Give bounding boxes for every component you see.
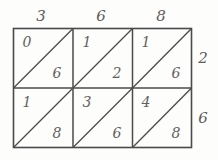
cell-lower-digit-r1c1: 6 <box>113 126 122 140</box>
cell-lower-digit-r1c0: 8 <box>53 126 62 140</box>
cell-upper-digit-r1c1: 3 <box>83 95 92 109</box>
cell-upper-digit-r1c0: 1 <box>23 95 32 109</box>
top-label-0: 3 <box>36 9 46 24</box>
cell-lower-digit-r1c2: 8 <box>172 126 181 140</box>
cell-upper-digit-r0c0: 0 <box>23 35 32 49</box>
cell-lower-digit-r0c0: 6 <box>53 66 62 80</box>
right-label-0: 2 <box>198 51 208 66</box>
lattice-figure: 3 6 8 2 6 0 6 1 2 1 6 1 8 3 6 4 8 <box>0 0 218 160</box>
right-label-1: 6 <box>198 111 208 126</box>
top-label-2: 8 <box>156 9 166 24</box>
cell-upper-digit-r1c2: 4 <box>142 95 151 109</box>
lattice-grid-drawing <box>0 0 218 160</box>
cell-lower-digit-r0c1: 2 <box>113 66 122 80</box>
cell-lower-digit-r0c2: 6 <box>172 66 181 80</box>
cell-upper-digit-r0c2: 1 <box>142 35 151 49</box>
top-label-1: 6 <box>96 9 106 24</box>
cell-upper-digit-r0c1: 1 <box>83 35 92 49</box>
